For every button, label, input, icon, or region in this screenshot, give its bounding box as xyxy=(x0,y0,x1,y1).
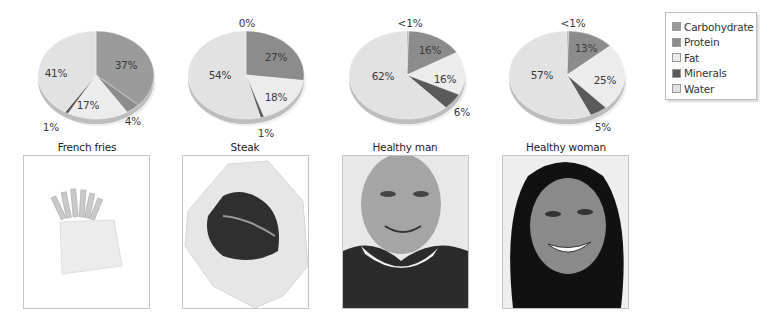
swatch-water xyxy=(672,84,681,93)
label-minerals: 1% xyxy=(258,127,274,139)
pie-healthy-man: <1% 16% 16% 6% 62% xyxy=(327,0,487,140)
steak-photo xyxy=(182,155,309,309)
legend-label: Fat xyxy=(684,52,699,64)
swatch-carbohydrate xyxy=(672,22,681,31)
label-protein: 13% xyxy=(575,42,598,54)
label-protein: 27% xyxy=(265,51,288,63)
caption-healthy-woman: Healthy woman xyxy=(526,141,606,153)
pie-chart-french-fries xyxy=(16,0,176,140)
label-minerals: 1% xyxy=(43,121,59,133)
french-fries-photo xyxy=(23,155,150,309)
swatch-protein xyxy=(672,38,681,47)
legend-item-fat: Fat xyxy=(672,50,756,66)
legend-label: Carbohydrate xyxy=(684,21,754,33)
legend-label: Protein xyxy=(684,36,719,48)
legend-item-carbohydrate: Carbohydrate xyxy=(672,19,756,35)
label-carbohydrate: <1% xyxy=(398,17,423,29)
swatch-fat xyxy=(672,53,681,62)
pie-french-fries: 37% 4% 17% 1% 41% xyxy=(16,0,176,140)
legend-label: Minerals xyxy=(684,67,727,79)
label-fat: 17% xyxy=(77,99,100,111)
label-carbohydrate: 0% xyxy=(239,17,255,29)
pie-steak: 0% 27% 18% 1% 54% xyxy=(166,0,326,140)
legend-item-minerals: Minerals xyxy=(672,66,756,82)
label-minerals: 5% xyxy=(595,121,611,133)
label-water: 41% xyxy=(45,67,68,79)
healthy-man-photo xyxy=(342,155,469,309)
label-minerals: 6% xyxy=(454,106,470,118)
pie-healthy-woman: <1% 13% 25% 5% 57% xyxy=(487,0,647,140)
label-fat: 25% xyxy=(594,74,617,86)
label-protein: 16% xyxy=(419,44,442,56)
healthy-woman-photo xyxy=(502,155,629,309)
label-fat: 16% xyxy=(434,73,457,85)
legend: Carbohydrate Protein Fat Minerals Water xyxy=(665,12,757,100)
label-water: 62% xyxy=(372,70,395,82)
label-carbohydrate: 37% xyxy=(115,59,138,71)
label-protein: 4% xyxy=(125,115,141,127)
legend-item-water: Water xyxy=(672,81,756,97)
label-fat: 18% xyxy=(265,91,288,103)
label-water: 57% xyxy=(531,69,554,81)
caption-healthy-man: Healthy man xyxy=(372,141,437,153)
legend-item-protein: Protein xyxy=(672,35,756,51)
caption-steak: Steak xyxy=(231,141,260,153)
label-water: 54% xyxy=(209,69,232,81)
legend-label: Water xyxy=(684,83,714,95)
swatch-minerals xyxy=(672,69,681,78)
caption-french-fries: French fries xyxy=(58,141,117,153)
label-carbohydrate: <1% xyxy=(561,17,586,29)
